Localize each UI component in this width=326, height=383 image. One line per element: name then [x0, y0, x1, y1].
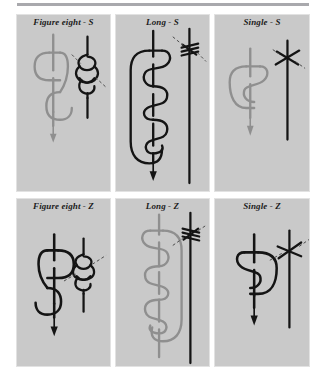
panel-long-z: Long - Z: [115, 198, 210, 367]
header-rule: [17, 3, 309, 6]
knot-illustration-single-z: [215, 199, 309, 366]
knot-diagram-figure: Figure eight - S: [0, 0, 326, 383]
knot-illustration-figure-eight-s: [17, 15, 110, 191]
panel-grid: Figure eight - S: [16, 14, 312, 367]
panel-single-z: Single - Z: [214, 198, 310, 367]
panel-long-s: Long - S: [115, 14, 210, 192]
knot-illustration-long-s: [116, 15, 209, 191]
panel-figure-eight-z: Figure eight - Z: [16, 198, 111, 367]
knot-illustration-long-z: [116, 199, 209, 366]
knot-illustration-figure-eight-z: [17, 199, 110, 366]
panel-single-s: Single - S: [214, 14, 310, 192]
panel-figure-eight-s: Figure eight - S: [16, 14, 111, 192]
knot-illustration-single-s: [215, 15, 309, 191]
